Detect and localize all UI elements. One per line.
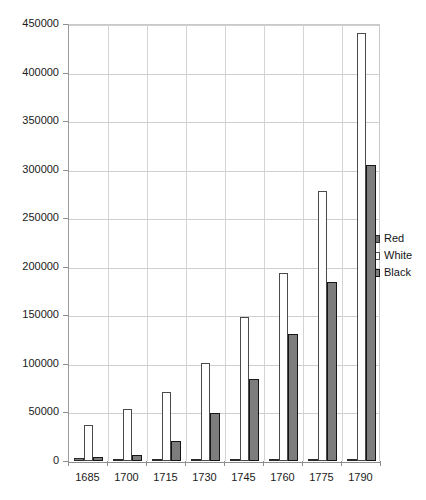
x-tick-mark-1730: [224, 461, 225, 466]
legend-item-red[interactable]: Red: [372, 231, 426, 246]
bar-black-1775: [327, 282, 337, 461]
bar-chart: 0500001000001500002000002500003000003500…: [0, 0, 426, 500]
bar-white-1700: [123, 409, 133, 461]
x-tick-mark-1790: [380, 461, 381, 466]
category-separator-1715: [147, 25, 148, 461]
bar-red-1775: [308, 459, 318, 461]
x-tick-mark-origin: [68, 461, 69, 466]
bar-red-1715: [152, 459, 162, 461]
category-separator-1760: [264, 25, 265, 461]
category-separator-1775: [303, 25, 304, 461]
bar-white-1790: [357, 33, 367, 461]
bar-red-1700: [113, 459, 123, 461]
bar-red-1685: [74, 458, 84, 461]
category-separator-1745: [225, 25, 226, 461]
x-tick-mark-1745: [263, 461, 264, 466]
bar-red-1745: [230, 459, 240, 461]
legend-item-white[interactable]: White: [372, 248, 426, 263]
x-tick-mark-1760: [302, 461, 303, 466]
y-tick-label-150000: 150000: [22, 309, 59, 320]
plot-area: [68, 24, 380, 461]
bar-white-1685: [84, 425, 94, 461]
bar-black-1790: [366, 165, 376, 461]
legend-item-black[interactable]: Black: [372, 265, 426, 280]
y-tick-label-0: 0: [53, 455, 59, 466]
x-tick-mark-1715: [185, 461, 186, 466]
category-separator-1790: [342, 25, 343, 461]
y-tick-label-400000: 400000: [22, 67, 59, 78]
bar-black-1700: [132, 455, 142, 461]
bar-white-1760: [279, 273, 289, 461]
bar-black-1685: [93, 457, 103, 461]
legend: RedWhiteBlack: [372, 231, 426, 282]
y-tick-label-50000: 50000: [28, 406, 59, 417]
bar-red-1730: [191, 459, 201, 461]
y-tick-label-200000: 200000: [22, 261, 59, 272]
x-tick-label-1790: 1790: [336, 472, 386, 483]
bar-black-1745: [249, 379, 259, 461]
bar-white-1730: [201, 363, 211, 461]
y-tick-label-250000: 250000: [22, 212, 59, 223]
bar-white-1745: [240, 317, 250, 461]
legend-label-red: Red: [384, 233, 404, 244]
x-tick-mark-1700: [146, 461, 147, 466]
legend-label-black: Black: [384, 267, 411, 278]
category-separator-1700: [108, 25, 109, 461]
y-tick-label-450000: 450000: [22, 18, 59, 29]
bar-red-1760: [269, 459, 279, 461]
bar-black-1760: [288, 334, 298, 461]
y-tick-label-350000: 350000: [22, 115, 59, 126]
x-tick-mark-1685: [107, 461, 108, 466]
bar-black-1715: [171, 441, 181, 461]
bar-white-1715: [162, 392, 172, 461]
bar-white-1775: [318, 191, 328, 461]
y-tick-label-300000: 300000: [22, 164, 59, 175]
bar-black-1730: [210, 413, 220, 461]
category-separator-1730: [186, 25, 187, 461]
bar-red-1790: [347, 459, 357, 461]
legend-label-white: White: [384, 250, 412, 261]
x-tick-mark-1775: [341, 461, 342, 466]
y-tick-label-100000: 100000: [22, 358, 59, 369]
